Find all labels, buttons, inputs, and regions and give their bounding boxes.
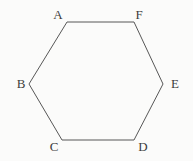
vertex-label-E: E [171,76,179,91]
vertex-label-D: D [138,139,147,154]
hexagon-diagram: AFEDCB [0,0,193,161]
hexagon-figure: AFEDCB [0,0,193,161]
vertex-label-A: A [53,7,63,22]
vertex-label-C: C [50,139,59,154]
vertex-label-F: F [135,7,142,22]
vertex-label-B: B [17,76,26,91]
hexagon-outline [29,22,163,140]
